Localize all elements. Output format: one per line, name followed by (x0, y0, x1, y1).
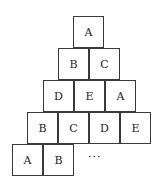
cell-r1-c1: A (73, 16, 104, 48)
cell-r3-c1: D (43, 80, 74, 112)
cell-r3-c3: A (105, 80, 136, 112)
cell-r3-c2: E (74, 80, 105, 112)
cell-r4-c3: D (89, 112, 120, 144)
cell-r4-c4: E (120, 112, 151, 144)
continuation-ellipsis: ··· (88, 151, 102, 164)
cell-r4-c2: C (58, 112, 89, 144)
cell-r4-c1: B (27, 112, 58, 144)
cell-r2-c2: C (89, 48, 120, 80)
cell-r5-c2: B (43, 144, 74, 176)
cell-r5-c1: A (12, 144, 43, 176)
cell-r2-c1: B (58, 48, 89, 80)
